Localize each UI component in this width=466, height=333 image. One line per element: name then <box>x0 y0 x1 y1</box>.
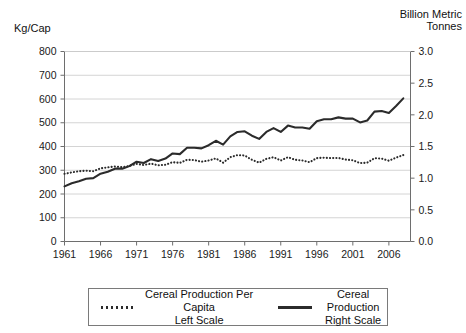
legend-label-production: Cereal Production Right Scale <box>319 288 387 327</box>
left-axis-ticks: 0100200300400500600700800 <box>39 45 65 247</box>
left-tick-label: 800 <box>39 45 57 57</box>
left-tick-label: 100 <box>39 211 57 223</box>
plot-area: 0100200300400500600700800 0.00.51.01.52.… <box>0 0 466 270</box>
x-tick-label: 2006 <box>377 248 401 260</box>
left-tick-label: 600 <box>39 93 57 105</box>
legend-label-per-capita: Cereal Production Per Capita Left Scale <box>142 288 256 327</box>
plot-svg: 0100200300400500600700800 0.00.51.01.52.… <box>0 0 466 270</box>
left-tick-label: 400 <box>39 140 57 152</box>
right-tick-label: 1.5 <box>419 140 434 152</box>
legend-item-production: Cereal Production Right Scale <box>278 288 387 327</box>
right-tick-label: 1.0 <box>419 172 434 184</box>
x-tick-label: 1981 <box>197 248 221 260</box>
chart-legend: Cereal Production Per Capita Left Scale … <box>88 288 388 326</box>
chart-container: Kg/Cap Billion Metric Tonnes 01002003004… <box>0 0 466 333</box>
legend-item-per-capita: Cereal Production Per Capita Left Scale <box>101 288 256 327</box>
right-tick-label: 0.0 <box>419 235 434 247</box>
x-tick-label: 1971 <box>125 248 149 260</box>
left-tick-label: 200 <box>39 188 57 200</box>
dotted-line-swatch-icon <box>101 306 135 309</box>
left-tick-label: 300 <box>39 164 57 176</box>
x-axis-ticks: 1961196619711976198119861991199620012006 <box>53 242 401 260</box>
right-axis-ticks: 0.00.51.01.52.02.53.0 <box>411 45 434 247</box>
x-tick-label: 1996 <box>305 248 329 260</box>
gridlines <box>65 52 411 218</box>
x-tick-label: 2001 <box>341 248 365 260</box>
series-line-production <box>65 98 404 186</box>
left-tick-label: 500 <box>39 116 57 128</box>
left-tick-label: 0 <box>51 235 57 247</box>
x-tick-label: 1961 <box>53 248 77 260</box>
right-tick-label: 0.5 <box>419 204 434 216</box>
series-line-per-capita <box>65 155 404 174</box>
solid-line-swatch-icon <box>278 306 312 309</box>
x-tick-label: 1986 <box>233 248 257 260</box>
right-tick-label: 2.5 <box>419 77 434 89</box>
right-tick-label: 2.0 <box>419 109 434 121</box>
x-tick-label: 1991 <box>269 248 293 260</box>
right-tick-label: 3.0 <box>419 45 434 57</box>
left-tick-label: 700 <box>39 69 57 81</box>
x-tick-label: 1976 <box>161 248 185 260</box>
x-tick-label: 1966 <box>89 248 113 260</box>
